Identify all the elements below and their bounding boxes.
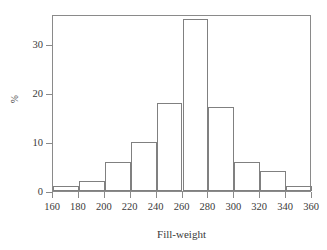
x-tick-label: 300 [225,202,241,213]
x-tick-mark [285,192,286,198]
x-tick-label: 200 [96,202,112,213]
histogram-bar [79,181,105,191]
histogram-bar [183,19,209,191]
x-tick-label: 220 [122,202,138,213]
x-tick-label: 260 [174,202,190,213]
histogram-bar [105,162,131,192]
x-tick-mark [52,192,53,198]
x-axis-title: Fill-weight [52,229,311,240]
x-tick-label: 280 [200,202,216,213]
x-tick-mark [207,192,208,198]
plot-area [52,15,311,192]
histogram-bar [286,186,312,191]
histogram-bar [53,186,79,191]
y-tick-label: 10 [33,138,44,149]
x-tick-mark [156,192,157,198]
histogram-bar [208,107,234,191]
x-tick-mark [104,192,105,198]
y-tick-label: 0 [38,187,43,198]
y-axis: 0102030 [0,0,52,250]
x-tick-mark [182,192,183,198]
x-tick-mark [259,192,260,198]
x-tick-mark [233,192,234,198]
histogram-bar [157,103,183,191]
x-tick-mark [130,192,131,198]
x-axis: 160180200220240260280300320340360 [52,192,311,250]
x-tick-label: 320 [251,202,267,213]
x-tick-mark [311,192,312,198]
bars-layer [53,16,310,191]
x-tick-label: 160 [44,202,60,213]
x-tick-label: 360 [303,202,319,213]
x-tick-mark [78,192,79,198]
histogram-bar [260,171,286,191]
x-tick-label: 240 [148,202,164,213]
histogram-bar [131,142,157,191]
histogram-figure: 0102030 % 160180200220240260280300320340… [0,0,327,250]
y-axis-title: % [11,95,21,103]
y-tick-label: 30 [33,39,44,50]
x-tick-label: 340 [277,202,293,213]
x-tick-label: 180 [70,202,86,213]
y-tick-label: 20 [33,88,44,99]
histogram-bar [234,162,260,192]
